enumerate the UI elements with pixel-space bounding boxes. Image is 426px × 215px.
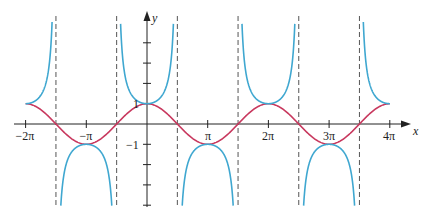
- x-axis-arrow-icon: [401, 121, 411, 128]
- x-tick-label-negpi: −π: [80, 129, 93, 143]
- y-tick-label-neg1: −1: [126, 138, 139, 152]
- plot-area: y x 1 −1 −2π −π π 2π 3π 4π: [0, 0, 426, 215]
- x-tick-label-4pi: 4π: [383, 129, 395, 143]
- x-tick-label-3pi: 3π: [323, 129, 335, 143]
- x-tick-label-2pi: 2π: [262, 129, 274, 143]
- sec-curve: [26, 22, 390, 206]
- x-tick-label-pi: π: [205, 129, 211, 143]
- y-tick-label-1: 1: [133, 97, 139, 111]
- x-tick-label-neg2pi: −2π: [16, 129, 35, 143]
- x-axis-label: x: [412, 124, 419, 138]
- y-axis-arrow-icon: [144, 11, 151, 21]
- y-axis-label: y: [151, 11, 158, 25]
- asymptotes: [56, 16, 360, 206]
- chart: y x 1 −1 −2π −π π 2π 3π 4π: [0, 0, 426, 215]
